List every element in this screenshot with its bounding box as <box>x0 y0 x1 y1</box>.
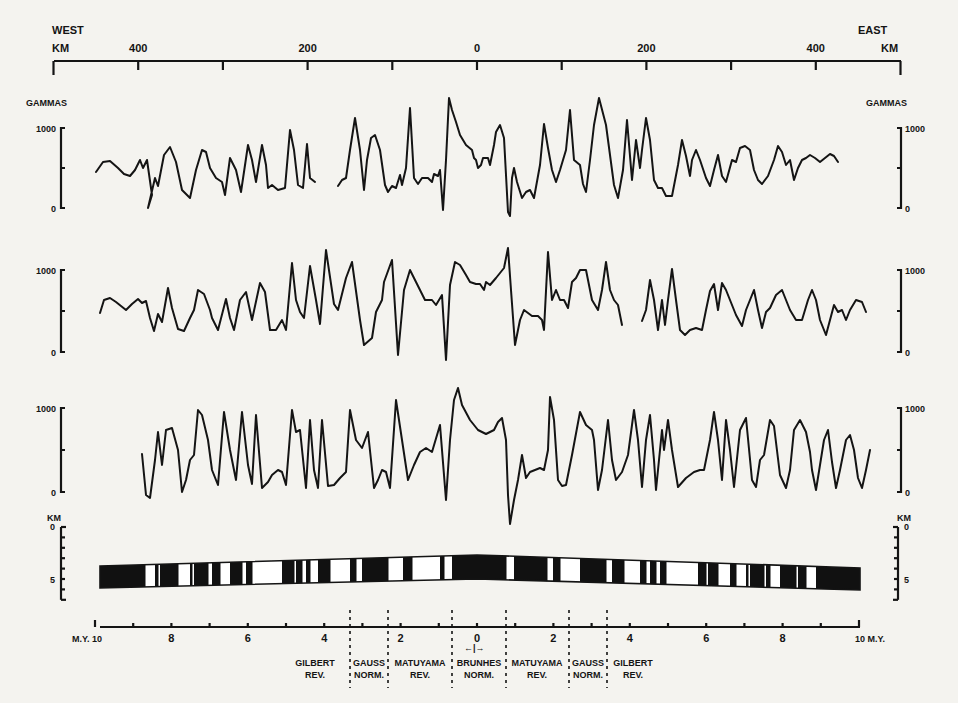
distance-tick-label: 0 <box>474 42 480 54</box>
normal-polarity-block <box>660 540 666 600</box>
gammas-label-right: GAMMAS <box>866 98 907 108</box>
profile-scales: GAMMAS GAMMAS 10000100001000010000100001… <box>26 98 925 498</box>
profile-1-trace <box>338 98 838 216</box>
time-tick-label: 4 <box>321 632 328 644</box>
normal-polarity-block <box>730 540 736 600</box>
normal-polarity-block <box>580 540 606 600</box>
time-unit-right: 10 M.Y. <box>855 634 885 644</box>
gamma-0-left: 0 <box>51 488 56 498</box>
normal-polarity-block <box>798 540 806 600</box>
time-tick-label: 6 <box>703 632 709 644</box>
gamma-1000-left: 1000 <box>36 266 56 276</box>
gamma-0-right: 0 <box>905 348 910 358</box>
gammas-label-left: GAMMAS <box>26 98 67 108</box>
epoch-polarity: REV. <box>623 670 643 680</box>
time-tick-label: 2 <box>398 632 404 644</box>
normal-polarity-block <box>212 540 220 600</box>
normal-polarity-block <box>306 540 310 600</box>
km-label-right: KM <box>881 42 898 54</box>
normal-polarity-block <box>403 540 412 600</box>
normal-polarity-block <box>698 540 706 600</box>
normal-polarity-block <box>650 540 656 600</box>
gamma-scale-left <box>61 270 65 352</box>
depth-model: KM KM 0505 <box>47 513 911 600</box>
polarity-blocks <box>100 540 860 600</box>
normal-polarity-block <box>440 540 444 600</box>
distance-tick-label: 400 <box>129 42 147 54</box>
distance-tick-label: 400 <box>807 42 825 54</box>
profile-1-trace <box>96 130 315 208</box>
normal-polarity-block <box>452 540 506 600</box>
gamma-scale-right <box>897 270 901 352</box>
normal-polarity-block <box>100 540 145 600</box>
normal-polarity-block <box>640 540 646 600</box>
brunhes-spread-arrow: ←|→ <box>464 643 485 653</box>
time-axis: 864202468 M.Y. 10 10 M.Y. <box>72 620 885 644</box>
normal-polarity-block <box>194 540 208 600</box>
normal-polarity-block <box>160 540 178 600</box>
gamma-0-left: 0 <box>51 204 56 214</box>
epoch-name: GAUSS <box>572 658 604 668</box>
gamma-scale-left <box>61 408 65 492</box>
gamma-1000-left: 1000 <box>36 124 56 134</box>
profile-3-trace <box>142 388 870 524</box>
epoch-name: MATUYAMA <box>395 658 446 668</box>
time-tick-label: 8 <box>780 632 786 644</box>
epoch-name: MATUYAMA <box>512 658 563 668</box>
epoch-name: BRUNHES <box>457 658 502 668</box>
gamma-1000-right: 1000 <box>905 404 925 414</box>
normal-polarity-block <box>318 540 330 600</box>
normal-polarity-block <box>766 540 770 600</box>
epoch-polarity: NORM. <box>464 670 494 680</box>
time-tick-label: 2 <box>550 632 556 644</box>
normal-polarity-block <box>750 540 764 600</box>
normal-polarity-block <box>612 540 624 600</box>
normal-polarity-block <box>553 540 560 600</box>
gamma-1000-left: 1000 <box>36 404 56 414</box>
normal-polarity-block <box>514 540 547 600</box>
west-label: WEST <box>52 24 84 36</box>
depth-0-label: 0 <box>50 522 55 532</box>
normal-polarity-block <box>350 540 356 600</box>
normal-polarity-block <box>246 540 252 600</box>
gamma-1000-right: 1000 <box>905 124 925 134</box>
normal-polarity-block <box>708 540 718 600</box>
depth-0-label: 0 <box>904 522 909 532</box>
epoch-polarity: REV. <box>410 670 430 680</box>
time-tick-label: 8 <box>168 632 174 644</box>
epoch-polarity: REV. <box>527 670 547 680</box>
epoch-name: GILBERT <box>295 658 335 668</box>
magnetic-anomaly-figure: WEST EAST KM KM 4002000200400 GAMMAS GAM… <box>0 0 958 703</box>
epoch-name: GILBERT <box>613 658 653 668</box>
gamma-0-right: 0 <box>905 488 910 498</box>
normal-polarity-block <box>230 540 242 600</box>
normal-polarity-block <box>816 540 860 600</box>
gamma-scale-right <box>897 408 901 492</box>
epoch-name: GAUSS <box>353 658 385 668</box>
east-label: EAST <box>858 24 888 36</box>
normal-polarity-block <box>296 540 302 600</box>
time-tick-label: 6 <box>245 632 251 644</box>
profile-2-trace <box>100 248 622 360</box>
time-tick-label: 4 <box>627 632 634 644</box>
gamma-0-left: 0 <box>51 348 56 358</box>
distance-axis: WEST EAST KM KM 4002000200400 <box>52 24 901 75</box>
distance-tick-label: 200 <box>298 42 316 54</box>
normal-polarity-block <box>282 540 294 600</box>
gamma-scale-right <box>897 128 901 208</box>
distance-axis-tick-labels: 4002000200400 <box>129 42 825 54</box>
gamma-1000-right: 1000 <box>905 266 925 276</box>
anomaly-profiles <box>96 98 870 524</box>
distance-tick-label: 200 <box>637 42 655 54</box>
normal-polarity-block <box>362 540 388 600</box>
distance-axis-ticks <box>54 61 901 75</box>
epoch-polarity: REV. <box>305 670 325 680</box>
epoch-polarity: NORM. <box>573 670 603 680</box>
time-unit-left: M.Y. 10 <box>72 634 102 644</box>
epoch-labels: GILBERTREV.GAUSSNORM.MATUYAMAREV.BRUNHES… <box>295 658 653 680</box>
profile-2-trace <box>642 269 866 335</box>
normal-polarity-block <box>780 540 796 600</box>
depth-5-label: 5 <box>904 575 909 585</box>
km-label-left: KM <box>52 42 69 54</box>
depth-5-label: 5 <box>50 575 55 585</box>
